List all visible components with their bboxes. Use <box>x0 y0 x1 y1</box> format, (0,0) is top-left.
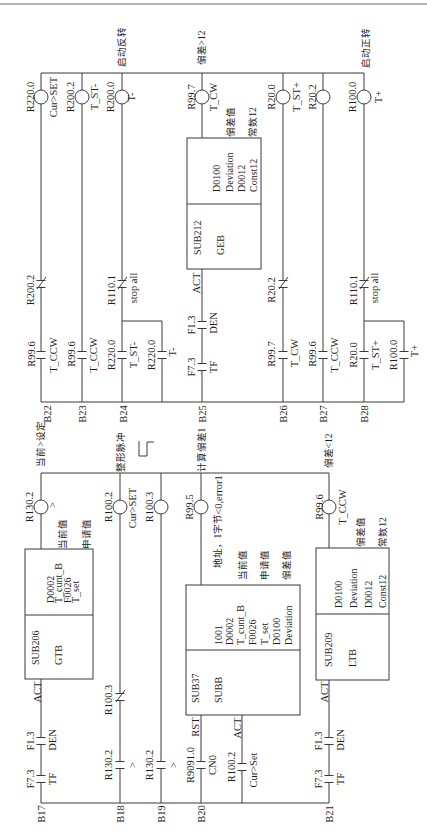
block-function-name: LTB <box>347 649 358 667</box>
coil-label: <0,error1 <box>213 475 224 514</box>
contact-address: F7.3 <box>186 358 197 377</box>
block-note: 常数12 <box>377 517 388 547</box>
rung-number: B19 <box>156 805 167 823</box>
contact-address: R110.1 <box>106 275 117 305</box>
coil-icon <box>194 500 208 514</box>
contact-label: stop all <box>128 273 139 304</box>
contact-label: > <box>168 762 179 768</box>
contact-address: R220.0 <box>146 340 157 371</box>
contact-label: DEN <box>208 312 219 334</box>
block-note: 常数12 <box>247 107 258 137</box>
contact-address: R99.6 <box>307 341 318 366</box>
contact-address: R200.2 <box>25 275 36 306</box>
rung-number: B25 <box>197 405 208 423</box>
coil-label: T_ST+ <box>291 82 302 112</box>
no-contact-icon <box>238 764 247 771</box>
contact-address: F1.3 <box>313 732 324 751</box>
coil-address: R200.0 <box>105 82 116 113</box>
rung-number: B20 <box>196 805 207 823</box>
coil-address: R99.7 <box>186 84 197 109</box>
coil-icon <box>154 500 168 514</box>
block-param: D0012 <box>236 165 247 192</box>
no-contact-icon <box>157 762 166 769</box>
block-enable-label: ACT <box>32 681 43 703</box>
contact-label: Cur>Set <box>248 752 259 787</box>
coil-address: R100.3 <box>144 492 155 523</box>
contact-label: T- <box>167 347 178 356</box>
block-param: Const12 <box>248 159 259 192</box>
no-contact-icon <box>198 322 207 329</box>
block-enable-label: ACT <box>191 272 202 294</box>
block-note: 偏差值 <box>225 107 236 137</box>
function-block-subb <box>186 585 300 715</box>
block-param: Const12 <box>377 575 388 608</box>
block-param: D0012 <box>363 581 374 608</box>
coil-icon <box>113 500 127 514</box>
contact-label: TF <box>208 361 219 373</box>
no-contact-icon <box>158 352 167 359</box>
ladder-diagram: R220.0 Cur>SET R200.2 R99.6 T_CCW B22 R2… <box>0 0 427 839</box>
block-sub-number: SUB206 <box>30 631 41 665</box>
contact-label: TF <box>335 773 346 785</box>
block-note: 当前值 <box>57 519 68 549</box>
block-param: D0100 <box>333 581 344 608</box>
contact-label: T_CCW <box>48 337 59 373</box>
rung-comment: 整形脉冲 <box>115 432 126 472</box>
rung-number: B28 <box>359 405 370 423</box>
block-function-name: SUBB <box>213 677 224 703</box>
no-contact-icon <box>116 762 125 769</box>
contact-label: DEN <box>335 729 346 751</box>
no-contact-icon <box>37 738 46 745</box>
no-contact-icon <box>325 738 334 745</box>
no-contact-icon <box>197 762 206 769</box>
coil-address: R100.2 <box>103 492 114 523</box>
no-contact-icon <box>319 352 328 359</box>
coil-label: T_CCW <box>337 489 348 525</box>
coil-address: R99.5 <box>184 494 195 519</box>
block-param: 1001 <box>213 625 224 645</box>
no-contact-icon <box>360 352 369 359</box>
block-sub-number: SUB209 <box>323 633 334 667</box>
coil-label: > <box>47 502 58 508</box>
contact-address: F1.3 <box>186 316 197 335</box>
block-note: 申请值 <box>259 550 270 580</box>
pulse-waveform-icon <box>139 441 154 456</box>
contact-address: R130.2 <box>144 750 155 781</box>
coil-label: T_CW <box>208 83 219 112</box>
rung-comment: 启动反转 <box>116 27 127 67</box>
no-contact-icon <box>78 352 87 359</box>
contact-address: R100.3 <box>103 685 114 716</box>
contact-address: R20.0 <box>348 342 359 367</box>
rung-number: B23 <box>77 405 88 423</box>
block-reset-label: RST <box>190 717 201 737</box>
contact-label: TF <box>47 773 58 785</box>
coil-label: T- <box>126 92 137 101</box>
block-sub-number: SUB212 <box>192 221 203 255</box>
contact-label: T_CCW <box>88 337 99 373</box>
contact-address: R99.6 <box>26 341 37 366</box>
contact-label: stop all <box>369 273 380 304</box>
contact-address: F7.3 <box>25 770 36 789</box>
block-param: D0002 <box>224 618 235 645</box>
block-param: Deviation <box>283 606 294 645</box>
lower-ladder-section: 当前>设定 R130.2 > 当前值 申请值 D0002 T_cunt_B F0… <box>24 421 390 822</box>
contact-label: T_ST- <box>128 341 139 368</box>
block-param: T_set <box>70 581 81 603</box>
rung-number: B18 <box>115 805 126 823</box>
block-note: 当前值 <box>237 550 248 580</box>
contact-address: R99.7 <box>266 341 277 366</box>
block-sub-number: SUB37 <box>190 674 201 703</box>
coil-icon <box>357 90 371 104</box>
rung-comment: 偏差>12 <box>196 30 207 65</box>
coil-address: R220.0 <box>25 82 36 113</box>
block-param: D0100 <box>211 165 222 192</box>
coil-icon <box>75 90 89 104</box>
block-param: Deviation <box>348 569 359 608</box>
block-enable-label: ACT <box>232 717 243 739</box>
coil-address: R99.6 <box>314 494 325 519</box>
contact-label: T_CW <box>289 339 300 368</box>
contact-label: T_ST+ <box>370 340 381 370</box>
no-contact-icon <box>37 776 46 783</box>
block-param: T_set <box>259 623 270 645</box>
contact-address: R220.0 <box>106 340 117 371</box>
